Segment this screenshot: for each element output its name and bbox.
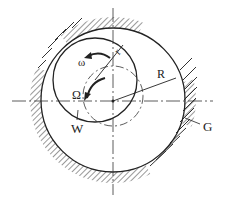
diagram-svg: ω Ω r R W G bbox=[0, 0, 231, 213]
label-R: R bbox=[157, 67, 165, 81]
housing-hatching bbox=[0, 0, 231, 213]
label-Omega: Ω bbox=[72, 88, 81, 102]
label-omega: ω bbox=[78, 56, 85, 68]
label-W: W bbox=[71, 121, 84, 136]
label-G: G bbox=[203, 119, 212, 134]
center-point bbox=[112, 100, 115, 103]
planetary-mill-diagram: ω Ω r R W G bbox=[0, 0, 231, 213]
